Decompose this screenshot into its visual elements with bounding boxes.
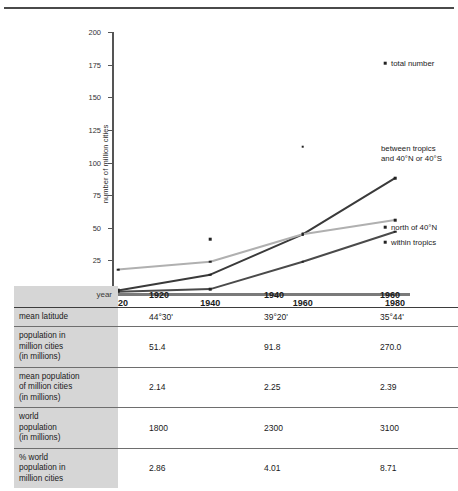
table-cell: 44°30'	[118, 307, 234, 327]
table-row-label: mean population of million cities (in mi…	[14, 367, 118, 408]
data-point-marker	[209, 273, 212, 276]
table-header-year-label: year	[14, 286, 118, 307]
table-cell: 270.0	[350, 327, 458, 368]
table-column-header: 1960	[350, 286, 458, 307]
y-tick-label: 125	[88, 125, 101, 134]
table-row: mean population of million cities (in mi…	[14, 367, 458, 408]
table-cell: 1800	[118, 408, 234, 449]
data-point-marker	[301, 146, 304, 149]
y-tick-label: 75	[93, 191, 101, 200]
chart-container: 0255075100125150175200 1920194019601980 …	[0, 18, 458, 293]
data-table: year1920194019601980mean latitude44°30'3…	[14, 286, 458, 488]
table-row: mean latitude44°30'39°20'35°44'33°27'	[14, 307, 458, 327]
data-table-container: year1920194019601980mean latitude44°30'3…	[14, 286, 446, 488]
data-point-marker	[394, 177, 397, 180]
table-cell: 2.39	[350, 367, 458, 408]
y-axis-label: number of million cities	[101, 124, 110, 203]
table-cell: 2300	[234, 408, 350, 449]
y-tick-label: 25	[93, 256, 101, 265]
table-cell: 91.8	[234, 327, 350, 368]
table-cell: 39°20'	[234, 307, 350, 327]
figure-caption	[0, 477, 458, 484]
table-cell: 51.4	[118, 327, 234, 368]
table-column-header: 1920	[118, 286, 234, 307]
legend-marker-total-number	[384, 62, 387, 65]
data-point-marker	[209, 260, 212, 263]
y-tick-label: 100	[88, 158, 101, 167]
y-tick-label: 200	[88, 28, 101, 37]
legend-label-between-tropics: between tropics and 40°N or 40°S	[381, 144, 442, 163]
table-cell: 35°44'	[350, 307, 458, 327]
table-row: population in million cities (in million…	[14, 327, 458, 368]
table-cell: 2.25	[234, 367, 350, 408]
data-point-marker	[209, 238, 212, 241]
y-tick-label: 175	[88, 60, 101, 69]
series-line	[118, 178, 395, 290]
table-column-header: 1940	[234, 286, 350, 307]
plot-area: 0255075100125150175200 1920194019601980 …	[112, 32, 410, 295]
table-row-label: world population (in millions)	[14, 408, 118, 449]
table-cell: 3100	[350, 408, 458, 449]
top-divider	[4, 7, 454, 9]
data-point-marker	[117, 268, 120, 271]
data-point-marker	[301, 233, 304, 236]
legend-label-north-of-40: north of 40°N	[391, 223, 437, 233]
legend-marker-within-tropics	[384, 241, 387, 244]
table-header-row: year1920194019601980	[14, 286, 458, 307]
legend-marker-north-of-40	[384, 226, 387, 229]
y-tick-label: 50	[93, 223, 101, 232]
data-point-marker	[301, 260, 304, 263]
legend-label-total-number: total number	[391, 59, 434, 69]
table-row-label: mean latitude	[14, 307, 118, 327]
y-tick-label: 150	[88, 93, 101, 102]
table-cell: 2.14	[118, 367, 234, 408]
table-row: world population (in millions)1800230031…	[14, 408, 458, 449]
figure-page: 0255075100125150175200 1920194019601980 …	[0, 0, 458, 491]
data-point-marker	[394, 219, 397, 222]
series-lines	[112, 32, 410, 295]
legend-label-within-tropics: within tropics	[391, 238, 436, 248]
table-row-label: population in million cities (in million…	[14, 327, 118, 368]
